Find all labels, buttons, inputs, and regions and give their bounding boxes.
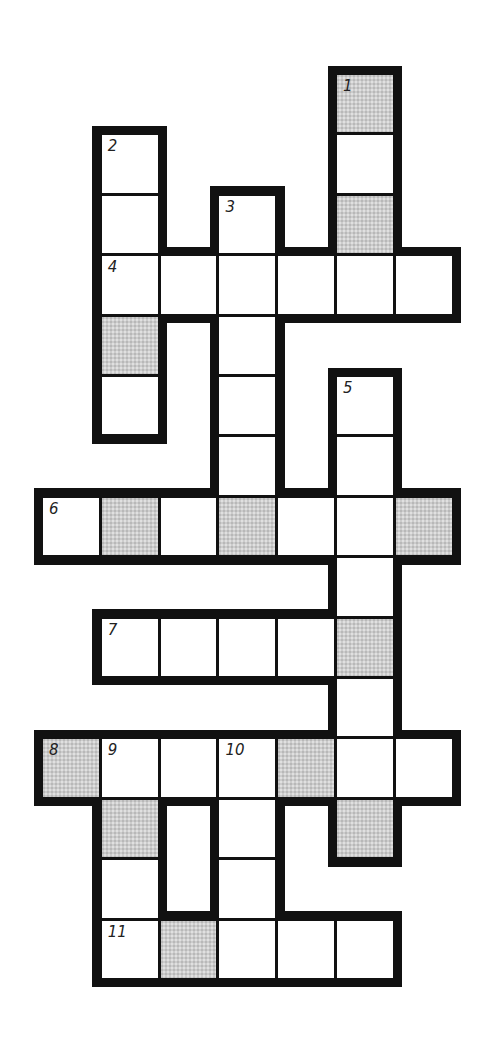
crossword-cell[interactable]	[396, 256, 452, 313]
crossword-cell[interactable]	[337, 437, 393, 494]
crossword-cell[interactable]	[102, 498, 158, 555]
clue-number: 7	[108, 623, 118, 638]
clue-number: 5	[343, 381, 353, 396]
crossword-cell[interactable]	[278, 256, 334, 313]
crossword-cell[interactable]	[278, 739, 334, 796]
crossword-cell[interactable]	[219, 921, 275, 978]
crossword-cell[interactable]	[278, 921, 334, 978]
crossword-cell[interactable]	[337, 558, 393, 615]
crossword-cell[interactable]	[219, 256, 275, 313]
clue-number: 9	[108, 743, 118, 758]
crossword-cell[interactable]	[161, 619, 217, 676]
crossword-cell[interactable]	[219, 437, 275, 494]
clue-number: 11	[108, 925, 127, 940]
crossword-cell[interactable]	[161, 256, 217, 313]
crossword-cell-9[interactable]: 9	[102, 739, 158, 796]
crossword-cell[interactable]	[337, 800, 393, 857]
crossword-cell-2[interactable]: 2	[102, 135, 158, 192]
crossword-cell[interactable]	[337, 619, 393, 676]
crossword-cell-4[interactable]: 4	[102, 256, 158, 313]
crossword-cell[interactable]	[102, 196, 158, 253]
clue-number: 8	[49, 743, 59, 758]
crossword-cell-1[interactable]: 1	[337, 75, 393, 132]
crossword-cell-11[interactable]: 11	[102, 921, 158, 978]
crossword-cell[interactable]	[278, 619, 334, 676]
clue-number: 10	[225, 743, 244, 758]
clue-number: 4	[108, 260, 118, 275]
crossword-cell[interactable]	[278, 498, 334, 555]
crossword-cell[interactable]	[396, 498, 452, 555]
crossword-cell-8[interactable]: 8	[43, 739, 99, 796]
crossword-cell[interactable]	[219, 317, 275, 374]
clue-number: 2	[108, 139, 118, 154]
crossword-cell[interactable]	[161, 921, 217, 978]
crossword-cell[interactable]	[337, 256, 393, 313]
crossword-cell[interactable]	[337, 135, 393, 192]
crossword-cell[interactable]	[219, 800, 275, 857]
crossword-board: 1234567891011	[0, 0, 495, 1043]
clue-number: 3	[225, 200, 235, 215]
crossword-cell[interactable]	[219, 377, 275, 434]
crossword-cell-5[interactable]: 5	[337, 377, 393, 434]
crossword-cell[interactable]	[337, 921, 393, 978]
crossword-cell-10[interactable]: 10	[219, 739, 275, 796]
crossword-cell[interactable]	[102, 860, 158, 917]
crossword-cell-3[interactable]: 3	[219, 196, 275, 253]
crossword-cell[interactable]	[337, 679, 393, 736]
crossword-cell[interactable]	[219, 619, 275, 676]
crossword-cell[interactable]	[161, 498, 217, 555]
crossword-cell[interactable]	[102, 377, 158, 434]
crossword-cell[interactable]	[337, 196, 393, 253]
crossword-cell[interactable]	[219, 498, 275, 555]
crossword-cell[interactable]	[102, 800, 158, 857]
crossword-cell[interactable]	[396, 739, 452, 796]
crossword-cell[interactable]	[102, 317, 158, 374]
crossword-cell[interactable]	[337, 739, 393, 796]
crossword-cell[interactable]	[337, 498, 393, 555]
crossword-cell-7[interactable]: 7	[102, 619, 158, 676]
crossword-cell[interactable]	[219, 860, 275, 917]
clue-number: 6	[49, 502, 59, 517]
crossword-cell[interactable]	[161, 739, 217, 796]
crossword-cell-6[interactable]: 6	[43, 498, 99, 555]
clue-number: 1	[343, 79, 353, 94]
